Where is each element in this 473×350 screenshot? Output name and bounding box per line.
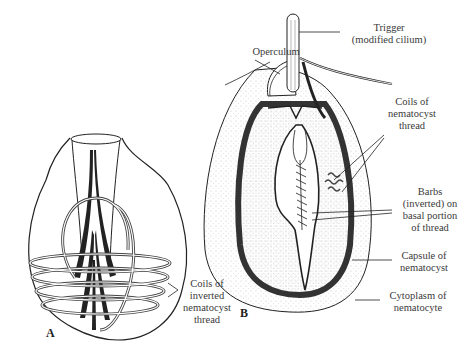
label-operculum: Operculum [246,46,306,58]
nematocyst-diagram: A B Coils of inverted nematocyst thread … [0,0,473,350]
label-coils-thread: Coils of nematocyst thread [376,96,448,132]
panel-a-letter: A [46,326,55,341]
label-capsule: Capsule of nematocyst [390,250,458,274]
label-barbs: Barbs (inverted) on basal portion of thr… [390,186,470,234]
label-trigger: Trigger (modified cilium) [340,22,438,46]
label-cytoplasm: Cytoplasm of nematocyte [378,290,458,314]
panel-b-drawing [204,14,392,312]
panel-b-letter: B [240,306,248,321]
label-coils-inverted-thread: Coils of inverted nematocyst thread [176,278,238,326]
panel-a-drawing [29,134,187,340]
